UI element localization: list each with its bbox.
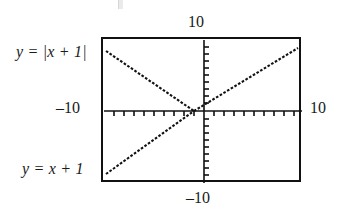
graphing-window [101, 37, 301, 182]
page-artifact-glyph [118, 0, 123, 9]
y-axis-min-label: –10 [186, 190, 210, 206]
plot-canvas [101, 37, 305, 186]
x-axis-min-label: –10 [56, 100, 80, 116]
linear-lower-left-branch [106, 111, 194, 174]
x-axis-max-label: 10 [310, 100, 326, 116]
abs-equation-label: y = |x + 1| [16, 44, 87, 60]
shared-right-branch [194, 48, 298, 111]
abs-equation-text: y = |x + 1| [16, 43, 87, 60]
abs-left-branch [106, 51, 194, 111]
y-axis-max-label: 10 [188, 14, 204, 30]
linear-equation-label: y = x + 1 [22, 161, 84, 177]
graph-figure: y = |x + 1| y = x + 1 10 –10 10 –10 [0, 0, 343, 217]
axes-group [104, 40, 302, 183]
linear-equation-text: y = x + 1 [22, 160, 84, 177]
